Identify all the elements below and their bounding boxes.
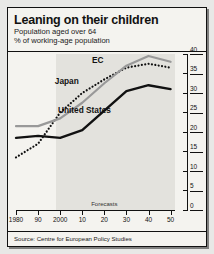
chart-subtitle-2: % of working-age population [14,36,206,45]
y-tick [183,210,188,211]
chart-header: Leaning on their children Population age… [8,8,206,48]
source-note: Source: Centre for European Policy Studi… [14,235,132,242]
chart-subtitle-1: Population aged over 64 [14,27,206,36]
y-tick-label: 0 [190,203,206,210]
chart-panel: Leaning on their children Population age… [7,7,207,247]
x-tick-label: 30 [123,216,130,223]
series-lines [16,54,175,210]
y-tick-label: 15 [190,144,206,151]
series-label-ec: EC [92,55,104,64]
series-label-united-states: United States [58,106,111,115]
series-line-ec [16,56,171,126]
y-tick [183,190,188,191]
y-tick-label: 40 [190,47,206,54]
y-tick [183,112,188,113]
page-title: Leaning on their children [14,13,206,27]
y-tick [183,151,188,152]
x-axis-line [16,210,175,211]
x-tick [126,211,127,215]
plot-canvas [16,54,175,210]
x-tick [82,211,83,215]
series-label-japan: Japan [55,77,79,86]
y-tick-label: 20 [190,125,206,132]
y-tick [183,93,188,94]
y-tick-label: 35 [190,66,206,73]
y-tick [183,132,188,133]
y-tick [183,171,188,172]
x-tick-label: 50 [167,216,174,223]
x-tick [149,211,150,215]
y-tick-label: 25 [190,105,206,112]
y-tick [183,54,188,55]
x-tick [171,211,172,215]
x-tick-label: 90 [34,216,41,223]
x-tick-label: 2000 [53,216,67,223]
x-tick-label: 10 [79,216,86,223]
x-tick-label: 40 [145,216,152,223]
y-tick-label: 10 [190,164,206,171]
x-tick [60,211,61,215]
y-tick [183,73,188,74]
source-bar: Source: Centre for European Policy Studi… [8,231,206,246]
x-tick [38,211,39,215]
forecasts-label: Forecasts [91,201,117,207]
y-tick-label: 30 [190,86,206,93]
x-tick-label: 20 [101,216,108,223]
x-tick [104,211,105,215]
y-tick-label: 5 [190,183,206,190]
x-tick-label: 1980 [9,216,23,223]
x-tick [16,211,17,215]
plot-area: 0510152025303540 19809020001020304050 Ja… [8,52,206,228]
